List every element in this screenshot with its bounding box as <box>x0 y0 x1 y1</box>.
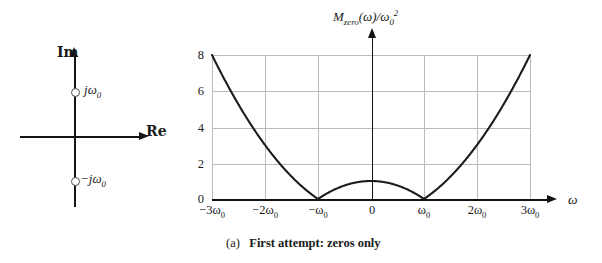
curve-layer <box>180 0 602 263</box>
zero-upper-label: jω0 <box>84 82 101 100</box>
ytick-label-4: 4 <box>188 120 204 135</box>
magnitude-plot: 8 6 4 2 0 −3ω0 −2ω0 −ω0 0 ω0 2ω0 3ω0 Mze… <box>180 0 602 263</box>
zero-marker-upper <box>71 88 80 97</box>
xtick-label-zero: 0 <box>369 203 375 218</box>
xtick-label-pos3: 3ω0 <box>521 203 540 220</box>
imaginary-axis-label: Im <box>57 44 78 60</box>
xtick-label-neg3: −3ω0 <box>199 203 225 220</box>
ytick-label-6: 6 <box>188 84 204 99</box>
x-axis-title: ω <box>568 192 578 208</box>
xtick-label-pos1: ω0 <box>418 203 430 220</box>
xtick-label-neg2: −2ω0 <box>252 203 278 220</box>
s-plane-diagram: Im Re jω0 −jω0 <box>0 0 180 240</box>
xtick-label-pos2: 2ω0 <box>468 203 487 220</box>
figure-caption: (a) First attempt: zeros only <box>226 236 381 251</box>
magnitude-curve <box>212 55 530 199</box>
ytick-label-8: 8 <box>188 48 204 63</box>
real-axis-label: Re <box>146 123 167 139</box>
zero-marker-lower <box>71 177 80 186</box>
figure-container: Im Re jω0 −jω0 8 6 4 2 0 <box>0 0 602 263</box>
imaginary-axis-line <box>74 55 76 185</box>
xtick-label-neg1: −ω0 <box>308 203 328 220</box>
caption-tag: (a) <box>226 236 240 250</box>
real-axis-line <box>20 136 140 138</box>
caption-text: First attempt: zeros only <box>249 236 380 250</box>
zero-lower-label: −jω0 <box>80 171 106 189</box>
ytick-label-2: 2 <box>188 156 204 171</box>
y-axis-title: Mzero(ω)/ω02 <box>333 8 398 27</box>
imaginary-axis-line-lower <box>74 185 76 207</box>
